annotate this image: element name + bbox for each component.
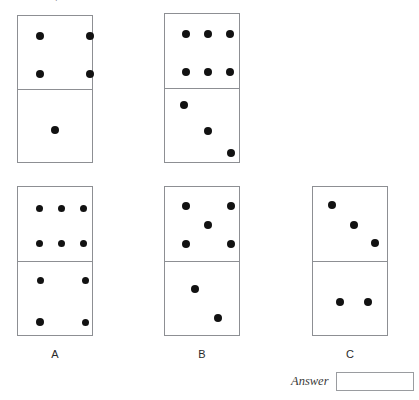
pip xyxy=(227,240,235,248)
pip xyxy=(371,239,379,247)
pip xyxy=(36,32,44,40)
pip xyxy=(36,205,43,212)
pip xyxy=(58,205,65,212)
pip xyxy=(86,32,94,40)
option-label-b: B xyxy=(162,348,242,360)
pip xyxy=(364,298,372,306)
option-domino-a[interactable] xyxy=(17,186,93,336)
pip xyxy=(204,30,212,38)
option-domino-c-top-half xyxy=(313,187,387,262)
pip xyxy=(36,240,43,247)
pip xyxy=(182,202,190,210)
pip xyxy=(36,70,44,78)
pip xyxy=(182,30,190,38)
option-label-a: A xyxy=(15,348,95,360)
option-domino-b[interactable] xyxy=(164,186,240,336)
pip xyxy=(82,277,89,284)
option-domino-a-bottom-half xyxy=(18,262,92,336)
pip xyxy=(350,221,358,229)
pip xyxy=(36,318,44,326)
pip xyxy=(336,298,344,306)
pip xyxy=(180,101,188,109)
option-domino-a-top-half xyxy=(18,187,92,262)
clipped-header-text: sequence of dominoes xyxy=(0,0,419,1)
pip xyxy=(86,70,94,78)
pip xyxy=(227,149,235,157)
option-domino-b-top-half xyxy=(165,187,239,262)
answer-input[interactable] xyxy=(336,372,414,391)
answer-row: Answer xyxy=(291,372,414,391)
option-domino-b-bottom-half xyxy=(165,262,239,336)
answer-label: Answer xyxy=(291,374,329,389)
pip xyxy=(80,240,87,247)
sequence-domino-2-top-half xyxy=(165,14,239,89)
pip xyxy=(328,201,336,209)
pip xyxy=(182,240,190,248)
pip xyxy=(80,205,87,212)
pip xyxy=(226,68,234,76)
pip xyxy=(226,30,234,38)
pip xyxy=(214,314,222,322)
pip xyxy=(58,240,65,247)
sequence-domino-2 xyxy=(164,13,240,163)
sequence-domino-1 xyxy=(17,15,93,163)
pip xyxy=(204,127,212,135)
pip xyxy=(37,277,44,284)
clipped-header-text-content: sequence of dominoes xyxy=(0,0,141,1)
pip xyxy=(227,202,235,210)
sequence-domino-1-top-half xyxy=(18,16,92,90)
pip xyxy=(191,285,199,293)
option-label-c: C xyxy=(310,348,390,360)
option-domino-c[interactable] xyxy=(312,186,388,336)
pip xyxy=(204,68,212,76)
pip xyxy=(204,221,212,229)
sequence-domino-2-bottom-half xyxy=(165,89,239,163)
pip xyxy=(51,126,59,134)
sequence-domino-1-bottom-half xyxy=(18,90,92,163)
option-domino-c-bottom-half xyxy=(313,262,387,336)
pip xyxy=(182,68,190,76)
pip xyxy=(82,319,89,326)
